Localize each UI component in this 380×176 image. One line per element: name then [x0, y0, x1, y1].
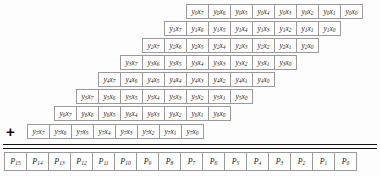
- pp-cell-y5x7: y5x7: [76, 89, 99, 104]
- term-x6: x6: [110, 93, 116, 100]
- term-x5: x5: [220, 25, 226, 32]
- product-cell-P0: P0: [334, 152, 357, 171]
- term-x5: x5: [132, 93, 138, 100]
- partial-product-row-3: y3x7y3x6y3x5y3x4y3x3y3x2y3x1y3x0: [120, 55, 297, 70]
- pp-cell-y7x0: y7x0: [181, 124, 204, 139]
- pp-cell-y4x1: y4x1: [230, 72, 253, 87]
- partial-product-row-7: y7x7y7x6y7x5y7x4y7x3y7x2y7x1y7x0: [27, 124, 204, 139]
- term-x5: x5: [198, 42, 204, 49]
- pp-cell-y1x0: y1x0: [318, 21, 341, 36]
- term-x5: x5: [242, 8, 248, 15]
- term-P11: P11: [99, 158, 109, 166]
- term-x2: x2: [264, 42, 270, 49]
- term-x7: x7: [132, 59, 138, 66]
- term-x6: x6: [61, 128, 67, 135]
- term-x2: x2: [198, 93, 204, 100]
- term-x6: x6: [198, 25, 204, 32]
- product-cell-P15: P15: [4, 152, 27, 171]
- term-x2: x2: [149, 128, 155, 135]
- term-x4: x4: [264, 8, 270, 15]
- pp-cell-y3x1: y3x1: [252, 55, 275, 70]
- term-x1: x1: [242, 76, 248, 83]
- term-x7: x7: [198, 8, 204, 15]
- product-cell-P10: P10: [114, 152, 137, 171]
- partial-product-row-5: y5x7y5x6y5x5y5x4y5x3y5x2y5x1y5x0: [76, 89, 253, 104]
- pp-cell-y6x3: y6x3: [142, 106, 165, 121]
- sum-rule-upper: [3, 144, 377, 145]
- term-x4: x4: [105, 128, 111, 135]
- pp-cell-y3x0: y3x0: [274, 55, 297, 70]
- term-x1: x1: [286, 42, 292, 49]
- pp-cell-y0x7: y0x7: [186, 4, 209, 19]
- pp-cell-y6x6: y6x6: [76, 106, 99, 121]
- term-x3: x3: [242, 42, 248, 49]
- pp-cell-y5x4: y5x4: [142, 89, 165, 104]
- term-x0: x0: [242, 93, 248, 100]
- term-x1: x1: [171, 128, 177, 135]
- term-P3: P3: [276, 158, 284, 166]
- term-P2: P2: [298, 158, 306, 166]
- term-P10: P10: [120, 158, 130, 166]
- pp-cell-y1x1: y1x1: [296, 21, 319, 36]
- pp-cell-y5x5: y5x5: [120, 89, 143, 104]
- term-x1: x1: [198, 110, 204, 117]
- term-P0: P0: [342, 158, 350, 166]
- pp-cell-y0x4: y0x4: [252, 4, 275, 19]
- pp-cell-y4x7: y4x7: [98, 72, 121, 87]
- term-x3: x3: [154, 110, 160, 117]
- term-x3: x3: [264, 25, 270, 32]
- term-x2: x2: [308, 8, 314, 15]
- product-cell-P2: P2: [290, 152, 313, 171]
- pp-cell-y0x3: y0x3: [274, 4, 297, 19]
- pp-cell-y6x2: y6x2: [164, 106, 187, 121]
- pp-cell-y5x2: y5x2: [186, 89, 209, 104]
- term-x0: x0: [352, 8, 358, 15]
- pp-cell-y3x5: y3x5: [164, 55, 187, 70]
- partial-product-row-0: y0x7y0x6y0x5y0x4y0x3y0x2y0x1y0x0: [186, 4, 363, 19]
- term-x3: x3: [127, 128, 133, 135]
- term-x2: x2: [176, 110, 182, 117]
- pp-cell-y7x2: y7x2: [137, 124, 160, 139]
- product-cell-P8: P8: [158, 152, 181, 171]
- term-x3: x3: [286, 8, 292, 15]
- product-cell-P13: P13: [48, 152, 71, 171]
- term-x4: x4: [132, 110, 138, 117]
- term-x2: x2: [220, 76, 226, 83]
- term-x4: x4: [176, 76, 182, 83]
- pp-cell-y5x6: y5x6: [98, 89, 121, 104]
- term-x6: x6: [220, 8, 226, 15]
- product-cell-P5: P5: [224, 152, 247, 171]
- pp-cell-y3x3: y3x3: [208, 55, 231, 70]
- pp-cell-y7x5: y7x5: [71, 124, 94, 139]
- product-cell-P14: P14: [26, 152, 49, 171]
- term-x3: x3: [176, 93, 182, 100]
- plus-operator-symbol: +: [6, 124, 15, 139]
- pp-cell-y0x0: y0x0: [340, 4, 363, 19]
- pp-cell-y6x1: y6x1: [186, 106, 209, 121]
- term-x3: x3: [220, 59, 226, 66]
- term-x4: x4: [198, 59, 204, 66]
- pp-cell-y2x5: y2x5: [186, 38, 209, 53]
- term-x1: x1: [220, 93, 226, 100]
- pp-cell-y3x7: y3x7: [120, 55, 143, 70]
- term-x4: x4: [242, 25, 248, 32]
- pp-cell-y6x4: y6x4: [120, 106, 143, 121]
- pp-cell-y4x0: y4x0: [252, 72, 275, 87]
- term-x6: x6: [132, 76, 138, 83]
- pp-cell-y6x5: y6x5: [98, 106, 121, 121]
- pp-cell-y2x7: y2x7: [142, 38, 165, 53]
- term-x2: x2: [286, 25, 292, 32]
- pp-cell-y4x2: y4x2: [208, 72, 231, 87]
- pp-cell-y2x0: y2x0: [296, 38, 319, 53]
- pp-cell-y5x0: y5x0: [230, 89, 253, 104]
- partial-product-row-4: y4x7y4x6y4x5y4x4y4x3y4x2y4x1y4x0: [98, 72, 275, 87]
- pp-cell-y7x1: y7x1: [159, 124, 182, 139]
- pp-cell-y1x4: y1x4: [230, 21, 253, 36]
- term-P7: P7: [188, 158, 196, 166]
- product-cell-P6: P6: [202, 152, 225, 171]
- pp-cell-y3x4: y3x4: [186, 55, 209, 70]
- term-x7: x7: [88, 93, 94, 100]
- term-x0: x0: [308, 42, 314, 49]
- pp-cell-y1x3: y1x3: [252, 21, 275, 36]
- term-x1: x1: [308, 25, 314, 32]
